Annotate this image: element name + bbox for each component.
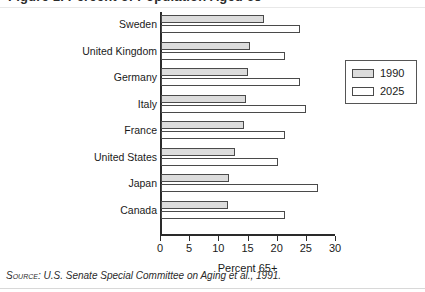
bar-2025 <box>161 78 300 86</box>
x-tick-label-15: 15 <box>233 242 263 254</box>
legend-swatch-1990 <box>352 69 374 78</box>
chart-legend: 1990 2025 <box>345 60 417 104</box>
bottom-divider <box>0 288 425 289</box>
category-label: France <box>124 124 157 136</box>
x-tick-label-30: 30 <box>320 242 350 254</box>
category-label: Italy <box>138 98 157 110</box>
x-tick-label-10: 10 <box>203 242 233 254</box>
category-label: Canada <box>120 204 157 216</box>
legend-label-1990: 1990 <box>380 67 404 79</box>
bar-2025 <box>161 158 278 166</box>
category-label: Germany <box>114 71 157 83</box>
x-tick-label-0: 0 <box>145 242 175 254</box>
x-tick-label-25: 25 <box>291 242 321 254</box>
bar-row: France <box>0 120 425 147</box>
category-label: United Kingdom <box>82 45 157 57</box>
bar-1990 <box>161 121 244 129</box>
legend-label-2025: 2025 <box>380 85 404 97</box>
bar-2025 <box>161 52 285 60</box>
bar-row: United States <box>0 147 425 174</box>
bar-1990 <box>161 68 248 76</box>
category-label: United States <box>94 151 157 163</box>
source-text: U.S. Senate Special Committee on Aging e… <box>44 270 282 281</box>
bar-2025 <box>161 184 318 192</box>
x-tick-label-5: 5 <box>174 242 204 254</box>
x-tick-30 <box>335 236 336 241</box>
bar-1990 <box>161 148 235 156</box>
top-divider <box>0 7 425 8</box>
x-tick-10 <box>218 236 219 241</box>
legend-swatch-2025 <box>352 87 374 96</box>
figure-title-cropped: Figure 1. Percent of Population Aged 65+ <box>0 0 425 7</box>
figure-container: Figure 1. Percent of Population Aged 65+… <box>0 0 425 292</box>
source-note: Source: U.S. Senate Special Committee on… <box>6 270 281 281</box>
x-tick-15 <box>248 236 249 241</box>
category-label: Japan <box>128 177 157 189</box>
x-tick-20 <box>277 236 278 241</box>
bar-1990 <box>161 174 229 182</box>
bar-1990 <box>161 42 250 50</box>
x-tick-25 <box>306 236 307 241</box>
bar-1990 <box>161 15 264 23</box>
legend-entry-2025: 2025 <box>352 85 414 98</box>
source-prefix: Source: <box>6 270 41 281</box>
bar-2025 <box>161 211 285 219</box>
figure-title-text: Figure 1. Percent of Population Aged 65+ <box>8 0 269 4</box>
x-tick-5 <box>189 236 190 241</box>
bar-2025 <box>161 25 300 33</box>
plot-area: 051015202530 SwedenUnited KingdomGermany… <box>0 10 425 232</box>
bar-2025 <box>161 105 306 113</box>
legend-entry-1990: 1990 <box>352 67 414 80</box>
bar-1990 <box>161 95 246 103</box>
bar-1990 <box>161 201 228 209</box>
x-tick-label-20: 20 <box>262 242 292 254</box>
category-label: Sweden <box>119 18 157 30</box>
bar-row: Canada <box>0 200 425 227</box>
bar-2025 <box>161 131 285 139</box>
bar-row: Sweden <box>0 14 425 41</box>
bar-row: Japan <box>0 173 425 200</box>
x-tick-0 <box>160 236 161 241</box>
